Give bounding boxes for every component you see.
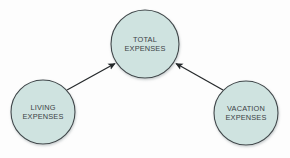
node-total-expenses[interactable] <box>111 10 179 78</box>
arrow-living-to-total <box>67 64 115 91</box>
diagram-graphic <box>0 0 290 158</box>
edge-living-to-total <box>67 64 115 91</box>
arrow-vacation-to-total <box>176 64 223 91</box>
edge-vacation-to-total <box>176 64 223 91</box>
diagram-canvas: TOTAL EXPENSES LIVING EXPENSES VACATION … <box>0 0 290 158</box>
node-living-expenses[interactable] <box>11 80 75 144</box>
node-vacation-expenses[interactable] <box>214 81 278 145</box>
